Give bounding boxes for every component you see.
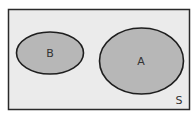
set-b-label: B (46, 47, 54, 60)
set-a-label: A (137, 55, 145, 68)
universal-set-label: S (176, 94, 183, 107)
venn-diagram: B A S (0, 0, 196, 115)
